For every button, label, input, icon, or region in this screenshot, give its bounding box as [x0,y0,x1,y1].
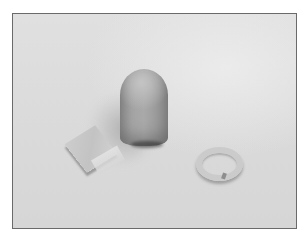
cylinder-base-shadow [131,141,163,148]
clay-cylinder [120,69,168,146]
clay-ring [196,147,243,181]
photo-frame [12,13,297,229]
